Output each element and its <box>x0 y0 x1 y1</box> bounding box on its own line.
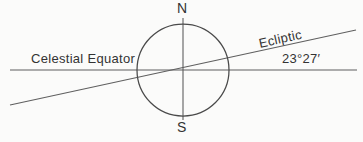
celestial-equator-label: Celestial Equator <box>31 51 135 66</box>
north-pole-label: N <box>177 1 187 16</box>
obliquity-angle-label: 23°27′ <box>282 51 320 66</box>
south-pole-label: S <box>177 120 187 135</box>
celestial-sphere-diagram: N S Celestial Equator Ecliptic 23°27′ <box>0 0 363 142</box>
